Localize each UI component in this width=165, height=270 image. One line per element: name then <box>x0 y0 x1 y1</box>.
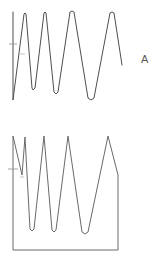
figure-root: A w <box>0 0 165 270</box>
waveform-chart-w <box>0 135 165 270</box>
chart-panel-a: A <box>0 0 165 135</box>
waveform-chart-a <box>0 0 165 135</box>
waveform-trace-w <box>13 136 118 250</box>
chart-panel-w: w <box>0 135 165 270</box>
panel-label-a: A <box>141 54 148 65</box>
waveform-trace-a <box>13 11 122 100</box>
